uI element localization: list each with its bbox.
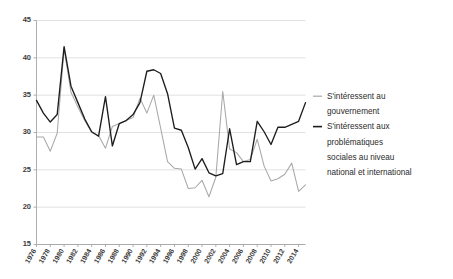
x-tick-label-1996: 1996	[161, 247, 175, 264]
y-tick-label-15: 15	[23, 239, 31, 248]
x-tick-label-1986: 1986	[92, 247, 106, 264]
y-tick-label-40: 40	[23, 53, 31, 62]
y-tick-label-30: 30	[23, 127, 31, 136]
x-tick-label-2010: 2010	[258, 247, 272, 264]
x-tick-label-2004: 2004	[217, 247, 231, 264]
legend-label-line: S'intéressent au	[327, 92, 386, 101]
line-chart-container: 15202530354045 1976197819801982198419861…	[0, 0, 453, 279]
x-tick-label-2012: 2012	[272, 247, 286, 264]
x-tick-label-1992: 1992	[134, 247, 148, 264]
legend-entry-gouvernement: S'intéressent augouvernement	[313, 92, 386, 116]
x-tick-label-1988: 1988	[106, 247, 120, 264]
data-series-group	[37, 47, 306, 197]
legend-label-line: problématiques	[327, 138, 383, 147]
x-tick-label-1976: 1976	[24, 247, 38, 264]
x-tick-label-2000: 2000	[189, 247, 203, 264]
y-axis-tick-labels: 15202530354045	[23, 15, 31, 248]
y-tick-label-35: 35	[23, 90, 31, 99]
y-tick-label-20: 20	[23, 202, 31, 211]
y-tick-label-25: 25	[23, 165, 31, 174]
x-tick-label-1994: 1994	[148, 247, 162, 264]
x-tick-label-1982: 1982	[65, 247, 79, 264]
series-line-problematiques-sociales	[37, 47, 306, 176]
x-tick-label-2008: 2008	[244, 247, 258, 264]
legend-label-line: sociales au niveau	[327, 153, 395, 162]
x-tick-label-1978: 1978	[37, 247, 51, 264]
x-tick-label-1980: 1980	[51, 247, 65, 264]
legend-label-line: gouvernement	[327, 107, 380, 116]
x-axis-tick-labels: 1976197819801982198419861988199019921994…	[24, 247, 300, 264]
chart-legend: S'intéressent augouvernementS'intéressen…	[313, 92, 412, 177]
x-tick-label-1998: 1998	[175, 247, 189, 264]
x-tick-label-2002: 2002	[203, 247, 217, 264]
chart-canvas: 15202530354045 1976197819801982198419861…	[0, 0, 453, 279]
legend-label-line: S'intéressent aux	[327, 122, 390, 131]
x-tick-label-2014: 2014	[286, 247, 300, 264]
legend-label-line: national et international	[327, 168, 412, 177]
x-tick-label-1984: 1984	[79, 247, 93, 264]
x-tick-label-2006: 2006	[230, 247, 244, 264]
series-line-gouvernement	[37, 49, 306, 197]
legend-entry-problematiques-sociales: S'intéressent auxproblématiquessociales …	[313, 122, 412, 177]
x-tick-label-1990: 1990	[120, 247, 134, 264]
y-tick-label-45: 45	[23, 15, 31, 24]
